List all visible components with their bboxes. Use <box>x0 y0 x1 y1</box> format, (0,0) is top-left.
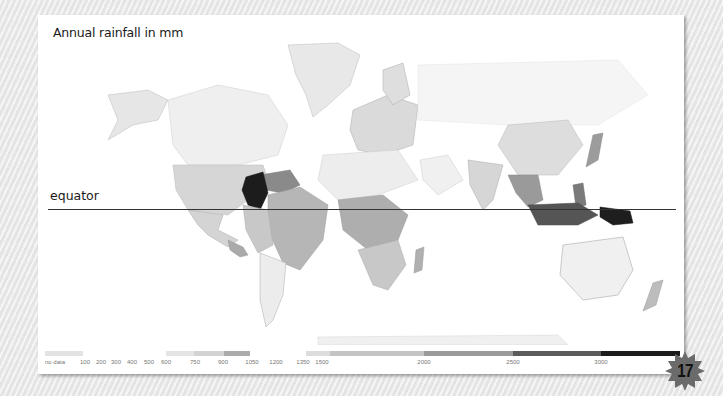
equator-label: equator <box>50 188 99 203</box>
legend-tick-label: 200 <box>96 359 106 365</box>
legend-tick-label: no data <box>45 359 65 365</box>
legend-tick-label: 600 <box>161 359 171 365</box>
region-canada <box>168 85 288 165</box>
legend-tick-label: 2500 <box>506 359 519 365</box>
legend-tick-label: 1200 <box>269 359 282 365</box>
world-map <box>38 15 684 345</box>
region-peru <box>243 205 273 253</box>
region-greenland <box>288 43 360 117</box>
legend-swatch <box>330 351 424 356</box>
region-arabia <box>420 155 463 195</box>
legend-tick-label: 500 <box>144 359 154 365</box>
region-se-asia <box>508 175 543 207</box>
legend-swatch <box>166 351 194 356</box>
region-china <box>498 120 583 175</box>
region-central-america <box>228 240 248 257</box>
legend-swatch <box>513 351 601 356</box>
region-alaska <box>108 90 168 140</box>
region-australia <box>560 237 633 300</box>
legend-tick-label: 1350 <box>296 359 309 365</box>
legend-swatch <box>224 351 250 356</box>
region-europe <box>350 95 418 155</box>
region-new-zealand <box>643 280 663 311</box>
region-antarctica <box>318 335 568 345</box>
legend-tick-label: 1500 <box>315 359 328 365</box>
map-card: Annual rainfall in mm equator no data100… <box>38 15 684 374</box>
region-madagascar <box>414 247 424 273</box>
legend-swatch <box>194 351 224 356</box>
region-indonesia <box>528 203 598 225</box>
legend-tick-label: 300 <box>111 359 121 365</box>
legend-swatch <box>45 351 83 356</box>
legend-tick-label: 3000 <box>594 359 607 365</box>
legend-tick-label: 100 <box>80 359 90 365</box>
legend-tick-label: 400 <box>127 359 137 365</box>
region-brazil <box>268 187 328 270</box>
legend-tick-label: 750 <box>190 359 200 365</box>
page-number-badge: 17 <box>664 350 706 392</box>
legend-tick-label: 2000 <box>417 359 430 365</box>
legend-tick-label: 1050 <box>245 359 258 365</box>
region-north-africa <box>318 150 418 200</box>
region-india <box>468 160 503 210</box>
legend-swatch <box>424 351 513 356</box>
equator-line <box>48 209 676 210</box>
region-southern-cone <box>260 253 286 327</box>
region-colombia <box>242 172 268 210</box>
legend-swatch <box>306 351 330 356</box>
page-number: 17 <box>668 350 702 392</box>
region-russia <box>418 60 648 125</box>
map-title: Annual rainfall in mm <box>53 25 183 40</box>
region-japan <box>586 133 603 167</box>
legend-tick-label: 900 <box>218 359 228 365</box>
